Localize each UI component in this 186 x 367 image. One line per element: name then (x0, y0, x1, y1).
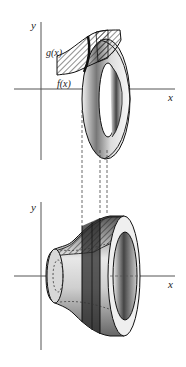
top-x-axis-label: x (167, 91, 173, 103)
bottom-panel: y x (14, 201, 175, 350)
bottom-x-axis-label: x (167, 278, 173, 290)
top-y-axis-label: y (30, 19, 36, 31)
bottom-y-axis-label: y (30, 201, 36, 213)
washer-method-diagram: y x g(x) f(x) y x (0, 0, 186, 367)
cross-section-strip (96, 30, 108, 62)
f-of-x-label: f(x) (57, 78, 72, 90)
washer-band (82, 218, 100, 334)
left-end-cap (47, 249, 63, 303)
top-panel: y x g(x) f(x) (14, 19, 175, 160)
g-of-x-label: g(x) (46, 47, 63, 59)
